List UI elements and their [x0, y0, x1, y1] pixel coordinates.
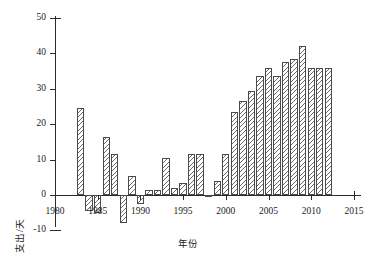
bar [171, 188, 178, 195]
y-tick-label: 0 [0, 190, 46, 200]
y-tick-mark [50, 124, 55, 125]
x-tick-label: 2005 [252, 206, 286, 216]
bar [308, 68, 315, 195]
y-tick-label: 10 [0, 155, 46, 165]
bar [239, 101, 246, 195]
y-tick-label: -10 [0, 225, 46, 235]
bar [256, 76, 263, 195]
x-tick-mark [98, 195, 99, 200]
x-tick-mark [269, 195, 270, 200]
x-axis-end-tick [354, 191, 355, 196]
x-axis-label: 年份 [0, 236, 376, 250]
bar [162, 158, 169, 195]
y-tick-label: 20 [0, 119, 46, 129]
x-tick-mark [183, 195, 184, 200]
x-tick-label: 1980 [38, 206, 72, 216]
y-tick-label: 50 [0, 13, 46, 23]
y-tick-mark [50, 53, 55, 54]
x-tick-label: 2010 [294, 206, 328, 216]
bar [325, 68, 332, 195]
bar [205, 195, 212, 197]
bar-series [0, 0, 376, 262]
y-tick-label: 30 [0, 84, 46, 94]
x-tick-mark [55, 195, 56, 200]
bar [196, 154, 203, 195]
bar [77, 108, 84, 195]
y-axis-top-tick [55, 18, 61, 19]
bar [222, 154, 229, 195]
x-tick-label: 2000 [209, 206, 243, 216]
y-tick-label: 40 [0, 48, 46, 58]
x-tick-mark [226, 195, 227, 200]
bar [316, 68, 323, 195]
bar [179, 183, 186, 195]
bar [273, 76, 280, 195]
bar [231, 112, 238, 195]
bar [145, 190, 152, 195]
bar [103, 137, 110, 195]
chart-figure: 支出/天 -1001020304050 19801985199019952000… [0, 0, 376, 262]
y-tick-mark [50, 160, 55, 161]
bar [248, 91, 255, 195]
x-tick-label: 2015 [337, 206, 371, 216]
x-tick-label: 1990 [123, 206, 157, 216]
bar [188, 154, 195, 195]
plot-area [0, 0, 376, 262]
bar [214, 181, 221, 195]
bar [128, 176, 135, 195]
x-tick-mark [140, 195, 141, 200]
x-tick-mark [311, 195, 312, 200]
y-tick-mark [50, 89, 55, 90]
bar [111, 154, 118, 195]
x-tick-label: 1995 [166, 206, 200, 216]
bar [299, 46, 306, 195]
y-axis-bottom-tick [55, 230, 61, 231]
bar [265, 68, 272, 195]
bar [282, 62, 289, 195]
bar [154, 190, 161, 195]
x-tick-label: 1985 [81, 206, 115, 216]
bar [290, 59, 297, 195]
